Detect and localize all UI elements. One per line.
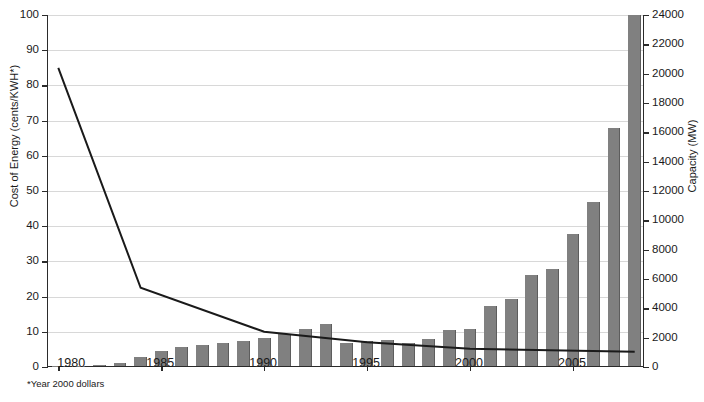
footnote: *Year 2000 dollars: [27, 378, 104, 389]
left-axis-tick-label: 100: [20, 9, 39, 21]
x-axis-tick-label: 2000: [455, 356, 483, 370]
right-axis-tick-label: 24000: [652, 9, 684, 21]
right-axis-tick-label: 6000: [652, 273, 678, 285]
left-axis-tick-label: 90: [26, 44, 39, 56]
left-axis-tick-label: 10: [26, 326, 39, 338]
right-axis-title: Capacity (MW): [686, 56, 698, 256]
right-axis-tick-label: 12000: [652, 185, 684, 197]
right-axis-tick-label: 16000: [652, 127, 684, 139]
left-axis-tick-label: 60: [26, 150, 39, 162]
x-axis-tick-label: 1985: [146, 356, 174, 370]
right-axis-tick-label: 2000: [652, 332, 678, 344]
right-axis-tick-label: 8000: [652, 244, 678, 256]
left-axis-title: Cost of Energy (cents/KWH*): [8, 36, 20, 236]
cost-of-energy-line: [58, 68, 634, 352]
right-axis-tick-label: 22000: [652, 39, 684, 51]
left-axis-tick-label: 40: [26, 220, 39, 232]
left-axis-tick-label: 70: [26, 115, 39, 127]
left-axis-tick-label: 0: [33, 361, 39, 373]
x-axis-tick-label: 2005: [558, 356, 586, 370]
left-axis-tick-label: 50: [26, 185, 39, 197]
right-axis-tick-label: 4000: [652, 303, 678, 315]
left-axis-tick-label: 80: [26, 80, 39, 92]
plot-area: 0102030405060708090100 02000400060008000…: [47, 15, 644, 367]
x-axis-tick-label: 1980: [57, 356, 85, 370]
right-axis-tick-label: 18000: [652, 97, 684, 109]
left-axis-tick-label: 30: [26, 256, 39, 268]
right-axis-tick: [643, 367, 649, 368]
left-axis-tick-label: 20: [26, 291, 39, 303]
x-axis-tick-label: 1995: [352, 356, 380, 370]
right-axis-tick-label: 20000: [652, 68, 684, 80]
left-axis-tick: [42, 367, 48, 368]
chart-figure: Cost of Energy (cents/KWH*) Capacity (MW…: [0, 0, 704, 402]
right-axis-tick-label: 0: [652, 361, 658, 373]
right-axis-tick-label: 14000: [652, 156, 684, 168]
line-series: [48, 15, 645, 367]
x-axis-tick-label: 1990: [249, 356, 277, 370]
right-axis-tick-label: 10000: [652, 215, 684, 227]
